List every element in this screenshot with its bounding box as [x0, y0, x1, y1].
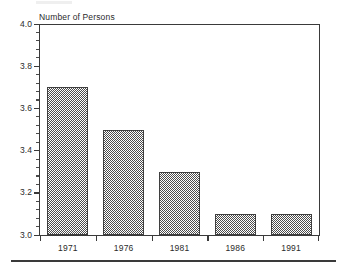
y-tick-mark	[34, 24, 39, 25]
x-axis-label: 1976	[96, 243, 152, 253]
x-axis-tick	[207, 235, 208, 241]
y-axis-label: 3.0	[20, 230, 32, 240]
y-axis-label: 3.2	[20, 187, 32, 197]
y-axis-tick-minor	[36, 226, 39, 227]
y-tick-mark	[34, 150, 39, 151]
y-axis-label: 3.4	[20, 145, 32, 155]
bar	[215, 214, 256, 235]
x-axis-tick	[152, 235, 153, 241]
y-axis-label: 3.8	[20, 61, 32, 71]
x-axis-label: 1981	[152, 243, 208, 253]
y-axis-label: 3.6	[20, 103, 32, 113]
bar	[103, 130, 144, 236]
scan-artifact	[36, 1, 72, 4]
y-axis-tick-minor	[36, 167, 39, 168]
y-axis-tick-minor	[36, 209, 39, 210]
x-axis-tick	[40, 235, 41, 241]
bottom-divider-rule	[11, 260, 336, 262]
y-tick-mark	[34, 66, 39, 67]
y-axis-tick-minor	[36, 159, 39, 160]
bar	[271, 214, 312, 235]
y-tick-mark	[34, 192, 39, 193]
y-axis-tick-minor	[36, 125, 39, 126]
bar-chart-figure: Number of Persons 4.03.83.63.43.23.0 197…	[0, 0, 347, 272]
y-axis-tick-minor	[36, 184, 39, 185]
y-axis-tick-minor	[36, 116, 39, 117]
chart-title: Number of Persons	[39, 12, 115, 22]
x-axis-tick	[263, 235, 264, 241]
y-axis-tick-minor	[36, 99, 39, 100]
y-axis-tick-minor	[36, 57, 39, 58]
bar	[159, 172, 200, 235]
bar	[47, 87, 88, 235]
y-tick-mark	[34, 108, 39, 109]
y-axis-tick-minor	[36, 142, 39, 143]
y-tick-mark	[34, 235, 39, 236]
y-axis-tick-minor	[36, 201, 39, 202]
x-axis-tick	[318, 235, 319, 241]
x-axis-label: 1991	[263, 243, 319, 253]
bars-container	[40, 24, 319, 235]
y-axis: 4.03.83.63.43.23.0	[0, 24, 39, 236]
y-axis-tick-minor	[36, 74, 39, 75]
x-axis-label: 1971	[40, 243, 96, 253]
y-axis-tick-minor	[36, 32, 39, 33]
x-axis-tick	[96, 235, 97, 241]
y-axis-label: 4.0	[20, 19, 32, 29]
y-axis-tick-minor	[36, 91, 39, 92]
x-axis-label: 1986	[207, 243, 263, 253]
y-axis-tick-minor	[36, 133, 39, 134]
y-axis-tick-minor	[36, 83, 39, 84]
y-axis-tick-minor	[36, 175, 39, 176]
x-axis: 19711976198119861991	[40, 235, 319, 259]
y-axis-tick-minor	[36, 49, 39, 50]
y-axis-tick-minor	[36, 218, 39, 219]
y-axis-tick-minor	[36, 40, 39, 41]
